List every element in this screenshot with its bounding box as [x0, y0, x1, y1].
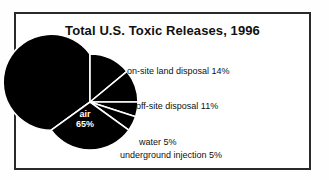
callout-water: water 5% [139, 137, 177, 148]
plot-area: air 65% on-site land disposal 14% off-si… [16, 14, 313, 172]
figure-container: Total U.S. Toxic Releases, 1996 air 65 [0, 0, 329, 180]
callout-onsite-land-disposal: on-site land disposal 14% [127, 66, 230, 77]
callout-underground-injection: underground injection 5% [120, 150, 222, 161]
chart-frame: Total U.S. Toxic Releases, 1996 air 65 [14, 12, 311, 170]
callout-offsite-disposal: off-site disposal 11% [136, 101, 218, 112]
pie-chart [30, 42, 150, 162]
